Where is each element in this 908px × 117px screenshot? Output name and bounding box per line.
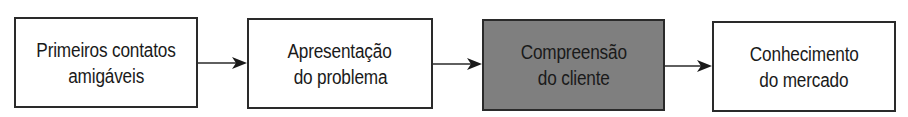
node-compreensao-cliente: Compreensão do cliente bbox=[482, 19, 665, 111]
node-label-line-2: do problema bbox=[293, 64, 387, 90]
node-label-line-2: do mercado bbox=[759, 67, 848, 93]
node-apresentacao-problema: Apresentação do problema bbox=[247, 18, 433, 109]
node-primeiros-contatos: Primeiros contatos amigáveis bbox=[14, 17, 198, 108]
node-conhecimento-mercado: Conhecimento do mercado bbox=[712, 21, 896, 112]
arrow-right-icon bbox=[198, 55, 248, 71]
arrow-right-icon bbox=[433, 56, 483, 72]
node-label-line-2: amigáveis bbox=[68, 63, 144, 89]
node-label-line-2: do cliente bbox=[538, 65, 610, 91]
node-label-line-1: Primeiros contatos bbox=[36, 37, 175, 63]
arrow-right-icon bbox=[665, 58, 713, 74]
node-label-line-1: Apresentação bbox=[288, 38, 392, 64]
node-label-line-1: Conhecimento bbox=[750, 41, 859, 67]
node-label-line-1: Compreensão bbox=[520, 39, 626, 65]
